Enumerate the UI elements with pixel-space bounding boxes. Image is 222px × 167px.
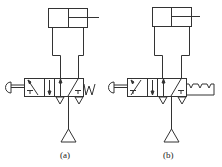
pressure-source-b — [164, 129, 179, 142]
pneumatic-circuit-diagrams — [0, 0, 222, 167]
spring-a — [84, 84, 95, 95]
push-button-a — [6, 82, 12, 93]
diagram-a — [6, 9, 100, 143]
diagram-b — [109, 8, 214, 143]
pressure-source-a — [61, 129, 76, 142]
port-line-right-a — [79, 28, 84, 79]
caption-a: (a) — [60, 150, 70, 160]
caption-b: (b) — [163, 150, 174, 160]
port-line-left-a — [53, 28, 61, 79]
detent-b — [187, 84, 215, 95]
exhaust-a-1 — [56, 97, 64, 104]
push-button-b — [109, 82, 114, 93]
exhaust-a-2 — [75, 97, 83, 104]
